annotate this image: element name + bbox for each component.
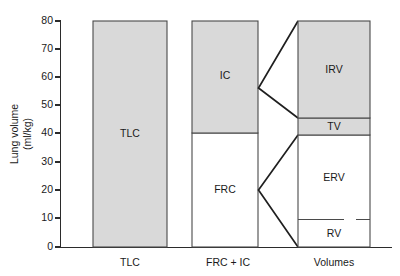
connector-frc-to-erv-rv	[259, 135, 299, 247]
segment-label-rv: RV	[327, 227, 341, 239]
y-axis-label-line2: (ml/kg)	[21, 118, 33, 150]
x-axis-label-tlc: TLC	[120, 256, 140, 268]
segment-label-tlc: TLC	[120, 127, 140, 139]
y-tick-label-80: 80	[41, 14, 53, 26]
y-tick-label-30: 30	[41, 155, 53, 167]
lung-volume-chart: Lung volume (ml/kg) 80 70 60 50 40 30 20…	[0, 0, 400, 276]
x-axis-label-volumes: Volumes	[314, 256, 354, 268]
chart-canvas: Lung volume (ml/kg) 80 70 60 50 40 30 20…	[0, 0, 400, 276]
y-tick-label-70: 70	[41, 42, 53, 54]
y-tick-label-60: 60	[41, 70, 53, 82]
y-axis-label: Lung volume (ml/kg)	[8, 104, 33, 164]
connector-ic-to-irv-tv	[259, 21, 299, 118]
y-tick-label-0: 0	[47, 240, 53, 252]
segment-label-erv: ERV	[323, 171, 344, 183]
y-tick-label-20: 20	[41, 183, 53, 195]
x-axis-labels: TLC FRC + IC Volumes	[120, 256, 354, 268]
y-tick-label-10: 10	[41, 211, 53, 223]
y-tick-label-50: 50	[41, 98, 53, 110]
segment-label-tv: TV	[327, 120, 340, 132]
x-axis-label-frc-ic: FRC + IC	[206, 256, 250, 268]
column-volumes: IRV TV ERV RV	[298, 21, 370, 247]
connector-group	[259, 21, 299, 247]
y-axis-label-line1: Lung volume	[8, 104, 20, 164]
segment-label-ic: IC	[220, 69, 231, 81]
y-tick-label-40: 40	[41, 126, 53, 138]
y-axis-ticks: 80 70 60 50 40 30 20 10 0	[41, 14, 60, 252]
segment-label-frc: FRC	[214, 183, 236, 195]
column-tlc: TLC	[93, 21, 167, 247]
column-frc-ic: IC FRC	[192, 21, 258, 247]
segment-label-irv: IRV	[325, 63, 342, 75]
